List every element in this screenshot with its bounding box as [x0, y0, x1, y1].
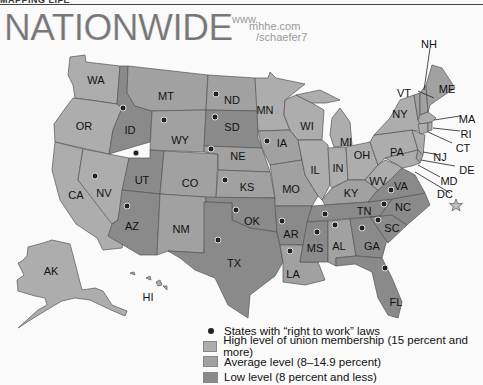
right-to-work-dot-TX — [215, 237, 221, 243]
state-label-UT: UT — [135, 174, 150, 186]
right-to-work-dot-IA — [264, 138, 270, 144]
legend-label: Low level (8 percent and less) — [224, 371, 377, 383]
state-label-KS: KS — [240, 181, 255, 193]
state-label-FL: FL — [390, 296, 403, 308]
legend-label: High level of union membership (15 perce… — [223, 334, 483, 358]
state-label-RI: RI — [461, 128, 472, 140]
dc-star-icon — [450, 199, 463, 211]
state-label-NH: NH — [421, 38, 437, 50]
state-label-ID: ID — [125, 124, 136, 136]
right-to-work-dot-NE — [208, 146, 214, 152]
state-label-AR: AR — [283, 228, 298, 240]
state-label-SC: SC — [384, 222, 399, 234]
state-label-IL: IL — [310, 164, 319, 176]
average-swatch — [203, 356, 218, 367]
state-label-IN: IN — [333, 162, 344, 174]
leader-MD — [418, 165, 440, 177]
state-label-IA: IA — [277, 137, 288, 149]
right-to-work-dot-ID — [120, 105, 126, 111]
right-to-work-dot-GA — [359, 225, 365, 231]
state-label-PA: PA — [390, 146, 405, 158]
state-label-AZ: AZ — [125, 220, 139, 232]
state-label-WI: WI — [300, 120, 313, 132]
right-to-work-dot-MS — [314, 229, 320, 235]
leader-RI — [433, 128, 460, 131]
state-label-NV: NV — [96, 187, 112, 199]
state-label-HI: HI — [143, 291, 154, 303]
state-label-OK: OK — [244, 215, 261, 227]
legend-item-high: High level of union membership (15 perce… — [203, 339, 483, 354]
right-to-work-dot-SC — [375, 217, 381, 223]
state-label-WY: WY — [171, 134, 189, 146]
state-label-TX: TX — [227, 257, 242, 269]
legend-label: Average level (8–14.9 percent) — [224, 356, 381, 368]
state-label-DE: DE — [459, 164, 474, 176]
state-label-GA: GA — [364, 240, 381, 252]
state-UT[interactable] — [122, 150, 164, 194]
state-label-TN: TN — [357, 205, 372, 217]
state-label-MS: MS — [307, 242, 324, 254]
state-label-NM: NM — [172, 223, 189, 235]
state-label-VA: VA — [394, 180, 409, 192]
legend-item-low: Low level (8 percent and less) — [203, 370, 483, 385]
right-to-work-dot-UT — [133, 150, 139, 156]
state-CT[interactable] — [418, 123, 428, 134]
state-label-MT: MT — [158, 90, 174, 102]
right-to-work-dot-FL — [382, 265, 388, 271]
state-label-NY: NY — [392, 108, 408, 120]
state-FL[interactable] — [336, 256, 402, 318]
state-label-MI: MI — [340, 136, 352, 148]
right-to-work-dot-OK — [233, 207, 239, 213]
right-to-work-dot-NC — [381, 201, 387, 207]
state-label-MD: MD — [440, 175, 457, 187]
state-label-VT: VT — [397, 87, 411, 99]
right-to-work-dot-VA — [388, 187, 394, 193]
state-label-KY: KY — [344, 187, 359, 199]
state-label-WA: WA — [87, 74, 105, 86]
state-label-NC: NC — [395, 201, 411, 213]
state-label-MN: MN — [256, 104, 273, 116]
right-to-work-dot-LA — [287, 248, 293, 254]
right-to-work-dot-KS — [222, 177, 228, 183]
state-label-CT: CT — [456, 142, 471, 154]
right-to-work-dot-icon — [203, 328, 218, 334]
high-swatch — [203, 341, 217, 352]
right-to-work-dot-NV — [92, 173, 98, 179]
right-to-work-dot-TN — [322, 211, 328, 217]
state-label-WV: WV — [369, 175, 387, 187]
state-label-OR: OR — [76, 120, 93, 132]
state-label-AL: AL — [332, 240, 345, 252]
right-to-work-dot-AL — [332, 222, 338, 228]
state-RI[interactable] — [428, 122, 432, 131]
right-to-work-dot-WY — [161, 117, 167, 123]
state-CO[interactable] — [160, 151, 218, 198]
state-label-ND: ND — [224, 94, 240, 106]
right-to-work-dot-AR — [279, 218, 285, 224]
state-label-CA: CA — [68, 189, 84, 201]
leader-CT — [428, 132, 452, 143]
legend: States with “right to work” laws High le… — [203, 323, 483, 385]
right-to-work-dot-SD — [212, 114, 218, 120]
leader-MA — [434, 116, 460, 120]
state-label-LA: LA — [286, 268, 300, 280]
state-label-OH: OH — [354, 149, 371, 161]
right-to-work-dot-AZ — [124, 203, 130, 209]
low-swatch — [203, 372, 218, 383]
state-label-MA: MA — [459, 113, 476, 125]
state-MT[interactable] — [127, 66, 208, 111]
state-label-SD: SD — [224, 121, 239, 133]
state-label-AK: AK — [44, 265, 59, 277]
state-label-CO: CO — [182, 177, 199, 189]
state-label-MO: MO — [282, 183, 300, 195]
state-label-NE: NE — [230, 150, 245, 162]
state-HI[interactable] — [130, 272, 167, 290]
right-to-work-dot-ND — [213, 91, 219, 97]
state-label-NJ: NJ — [433, 151, 446, 163]
state-AK[interactable] — [17, 240, 127, 328]
state-label-ME: ME — [439, 83, 456, 95]
